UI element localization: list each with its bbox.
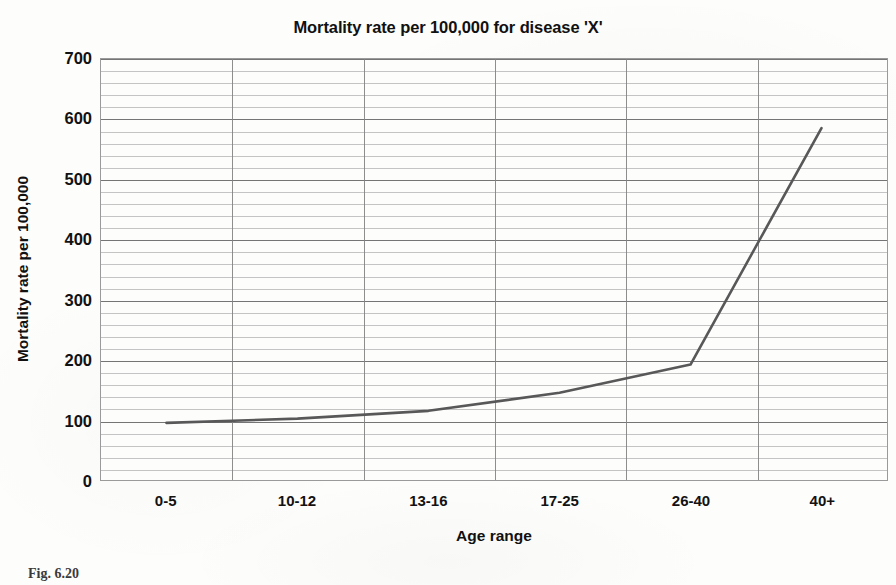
x-axis-tick-label: 10-12 [278, 492, 316, 509]
x-axis-tick-label: 26-40 [672, 492, 710, 509]
y-axis-tick-label: 0 [6, 472, 92, 491]
line-chart: Mortality rate per 100,000 for disease '… [0, 0, 896, 560]
x-axis-tick-label: 40+ [810, 492, 835, 509]
y-axis-title: Mortality rate per 100,000 [14, 119, 32, 419]
series-line-mortality-rate [101, 59, 887, 480]
x-axis-tick-label: 0-5 [155, 492, 177, 509]
x-axis-tick-label: 13-16 [409, 492, 447, 509]
x-axis-title: Age range [100, 527, 888, 545]
data-line [167, 128, 822, 423]
y-axis-tick-label: 700 [6, 49, 92, 68]
x-axis-tick-label: 17-25 [540, 492, 578, 509]
chart-title: Mortality rate per 100,000 for disease '… [0, 18, 896, 37]
figure-caption: Fig. 6.20 [28, 566, 79, 582]
scanned-page-background: Mortality rate per 100,000 for disease '… [0, 0, 896, 585]
plot-area [100, 58, 888, 481]
